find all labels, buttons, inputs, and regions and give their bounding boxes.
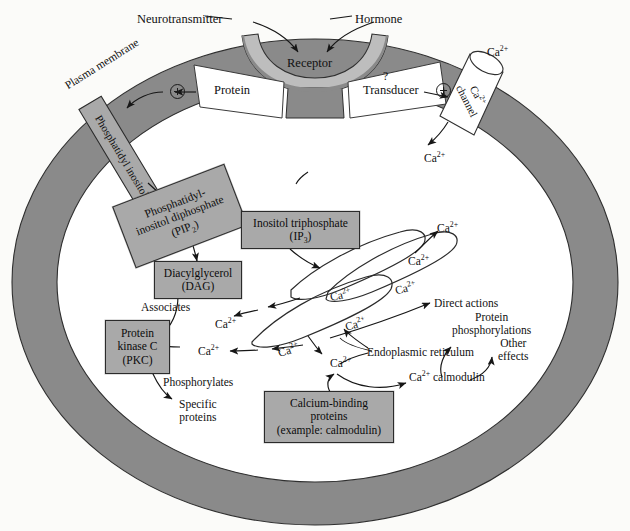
cbp-line3: (example: calmodulin)	[277, 424, 381, 436]
dag-box: Diacylglycerol (DAG)	[154, 261, 242, 299]
protein-phos-line1: Protein	[475, 311, 508, 323]
protein-phos-line2: phosphorylations	[452, 324, 531, 336]
ip3-box: Inositol triphosphate (IP3)	[241, 211, 360, 249]
transducer-question-label: ?	[383, 70, 388, 83]
ip3-line2-pre: (IP	[290, 230, 304, 242]
ca-cytosol-lower-label: Ca2+	[198, 345, 219, 358]
other-effects-label: Other effects	[498, 337, 528, 363]
calcium-ion-charge: 2+	[421, 253, 429, 262]
calcium-ion-base: Ca	[330, 357, 343, 369]
ca-cytosol-upper-label: Ca2+	[215, 318, 236, 331]
calcium-ion-charge: 2+	[228, 316, 236, 325]
calcium-ion-charge: 2+	[500, 44, 508, 53]
ca-calmodulin-charge: 2+	[422, 369, 430, 378]
figure-canvas: Neurotransmitter Hormone Plasma membrane…	[0, 0, 630, 531]
diagram-vector-layer	[0, 0, 630, 531]
protein-phosphorylations-label: Protein phosphorylations	[452, 311, 531, 337]
plus-sign-icon-right	[436, 83, 451, 98]
transducer-label: Transducer	[363, 83, 419, 97]
specific-line1: Specific	[179, 398, 217, 410]
neurotransmitter-label: Neurotransmitter	[137, 12, 222, 26]
endoplasmic-reticulum-label: Endoplasmic reticulum	[367, 346, 474, 359]
calcium-ion-charge: 2+	[211, 343, 219, 352]
hormone-label: Hormone	[355, 12, 402, 26]
specific-line2: proteins	[179, 411, 216, 423]
calcium-ion-base: Ca	[408, 255, 421, 267]
associates-label: Associates	[141, 301, 190, 314]
calcium-ion-base: Ca	[487, 46, 500, 58]
calcium-ion-charge: 2+	[437, 150, 445, 159]
calcium-calmodulin-label: Ca2+ calmodulin	[409, 371, 485, 384]
protein-label: Protein	[214, 83, 250, 97]
ca-influx-cytosol-label: Ca2+	[424, 152, 445, 165]
cbp-line2: proteins	[310, 410, 347, 422]
calcium-ion-charge: 2+	[343, 355, 351, 364]
other-line1: Other	[500, 337, 526, 349]
ip3-line1: Inositol triphosphate	[253, 217, 348, 229]
other-line2: effects	[498, 350, 528, 362]
ca-extracellular-top-label: Ca2+	[487, 46, 508, 59]
calcium-ion-base: Ca	[424, 152, 437, 164]
dag-line1: Diacylglycerol	[164, 267, 232, 279]
calcium-ion-base: Ca	[198, 345, 211, 357]
ca-er-lumen-1-label: Ca2+	[408, 255, 429, 268]
specific-proteins-label: Specific proteins	[179, 398, 217, 424]
ip3-line2-post: )	[308, 230, 312, 242]
pkc-line3: (PKC)	[122, 354, 152, 366]
pkc-line1: Protein	[121, 327, 154, 339]
pkc-box: Protein kinase C (PKC)	[105, 320, 170, 374]
calcium-ion-base: Ca	[215, 318, 228, 330]
pkc-line2: kinase C	[118, 340, 158, 352]
ca-calmodulin-post: calmodulin	[430, 371, 485, 383]
calcium-ion-charge: 2+	[341, 285, 351, 296]
cbp-line1: Calcium-binding	[290, 397, 368, 409]
ca-calmodulin-pre: Ca	[409, 371, 422, 383]
ca-er-release-top-label: Ca2+	[437, 222, 458, 235]
plus-sign-icon-left	[170, 84, 185, 99]
direct-actions-label: Direct actions	[434, 297, 498, 310]
calcium-binding-proteins-box: Calcium-binding proteins (example: calmo…	[264, 391, 394, 443]
ca-near-er-foot-label: Ca2+	[330, 357, 351, 370]
phosphorylates-label: Phosphorylates	[163, 376, 233, 389]
calcium-ion-base: Ca	[437, 222, 450, 234]
calcium-ion-charge: 2+	[406, 278, 416, 289]
calcium-ion-charge: 2+	[450, 220, 458, 229]
dag-line2: (DAG)	[182, 280, 215, 292]
receptor-label: Receptor	[287, 56, 332, 70]
